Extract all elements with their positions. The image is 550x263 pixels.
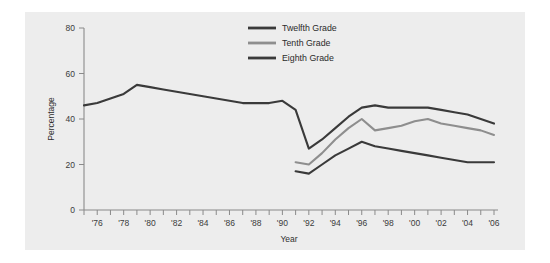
legend-label-eighth-grade: Eighth Grade [282,53,334,63]
x-tick-label: '98 [383,218,394,228]
y-tick-label: 20 [66,160,76,170]
series-line-eighth-grade [296,142,494,174]
x-tick-label: '78 [118,218,129,228]
y-tick-label: 80 [66,23,76,33]
legend-label-tenth-grade: Tenth Grade [282,38,331,48]
x-tick-label: '86 [224,218,235,228]
y-tick-label: 60 [66,69,76,79]
x-tick-label: '76 [92,218,103,228]
x-tick-label: '00 [409,218,420,228]
y-tick-label: 40 [66,114,76,124]
x-axis-title: Year [280,234,297,244]
series-line-tenth-grade [296,119,494,165]
x-tick-label: '82 [171,218,182,228]
legend-label-twelfth-grade: Twelfth Grade [282,23,337,33]
x-tick-label: '02 [436,218,447,228]
chart-figure: 020406080'76'78'80'82'84'86'88'90'92'94'… [0,0,550,263]
x-tick-label: '84 [197,218,208,228]
y-tick-label: 0 [70,205,75,215]
x-tick-label: '94 [330,218,341,228]
x-tick-label: '06 [488,218,499,228]
series-line-twelfth-grade [84,85,494,149]
x-tick-label: '04 [462,218,473,228]
x-tick-label: '92 [303,218,314,228]
x-tick-label: '88 [250,218,261,228]
chart-plot-area: 020406080'76'78'80'82'84'86'88'90'92'94'… [0,0,550,263]
x-tick-label: '90 [277,218,288,228]
x-tick-label: '96 [356,218,367,228]
x-tick-label: '80 [145,218,156,228]
y-axis-title: Percentage [46,97,56,141]
